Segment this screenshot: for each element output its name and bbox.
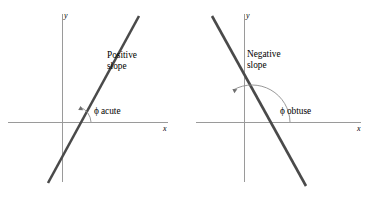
positive-slope-caption-line1: Positive xyxy=(107,50,137,61)
obtuse-angle-label: ϕobtuse xyxy=(280,100,311,118)
slope-figure: Positive slope ϕacute y x Negative slope… xyxy=(0,0,381,198)
positive-slope-caption: Positive slope xyxy=(107,50,137,72)
y-axis-label-negative: y xyxy=(246,11,250,20)
acute-angle-label: ϕacute xyxy=(94,100,121,118)
panel-negative-slope xyxy=(196,14,361,186)
positive-slope-caption-line2: slope xyxy=(107,61,137,72)
obtuse-angle-text: obtuse xyxy=(285,106,311,116)
figure-canvas xyxy=(0,0,381,198)
panel-positive-slope xyxy=(8,14,168,183)
negative-slope-caption-line1: Negative xyxy=(247,49,281,60)
y-axis-label-positive: y xyxy=(64,11,68,20)
negative-slope-caption-line2: slope xyxy=(247,60,281,71)
acute-angle-text: acute xyxy=(99,106,121,116)
obtuse-arc-arrowhead xyxy=(232,89,237,93)
x-axis-label-negative: x xyxy=(357,124,361,133)
x-axis-label-positive: x xyxy=(163,124,167,133)
negative-slope-caption: Negative slope xyxy=(247,49,281,71)
